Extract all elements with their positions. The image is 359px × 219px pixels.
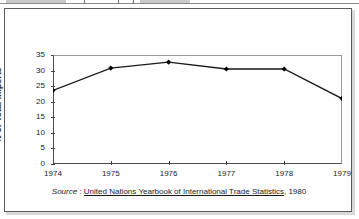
x-tick-label: 1975 xyxy=(89,169,133,178)
x-tick-mark xyxy=(111,161,112,165)
data-point-marker xyxy=(224,66,229,71)
source-title: United Nations Yearbook of International… xyxy=(84,187,284,196)
y-axis-title: % of Total Imports xyxy=(0,45,7,165)
y-tick-label: 25 xyxy=(27,82,45,90)
data-point-marker xyxy=(53,88,56,93)
scan-artifact-top-row xyxy=(0,0,359,5)
artifact-text-smudge xyxy=(140,0,190,3)
x-tick-label: 1978 xyxy=(262,169,306,178)
source-label: Source xyxy=(52,187,77,196)
y-tick-label: 10 xyxy=(27,129,45,137)
x-tick-label: 1976 xyxy=(147,169,191,178)
artifact-column-rule xyxy=(133,0,134,4)
x-tick-label: 1977 xyxy=(204,169,248,178)
data-point-marker xyxy=(282,66,287,71)
page-scan-shadow-bottom xyxy=(6,212,355,215)
artifact-column-rule xyxy=(118,0,119,4)
series-line xyxy=(53,62,342,98)
artifact-column-rule xyxy=(84,0,85,4)
x-tick-mark xyxy=(169,161,170,165)
y-tick-mark xyxy=(51,164,55,165)
x-tick-mark xyxy=(284,161,285,165)
y-tick-label: 20 xyxy=(27,98,45,106)
data-point-marker xyxy=(166,60,171,65)
artifact-text-smudge xyxy=(6,0,66,3)
figure-frame: % of Total Imports 05101520253035 197419… xyxy=(4,8,352,212)
line-series-svg xyxy=(53,55,342,164)
y-tick-label: 5 xyxy=(27,144,45,152)
source-caption: Source : United Nations Yearbook of Inte… xyxy=(5,187,353,196)
y-tick-label: 35 xyxy=(27,51,45,59)
x-tick-mark xyxy=(226,161,227,165)
source-separator: : xyxy=(77,187,84,196)
page-scan-shadow-right xyxy=(352,10,355,214)
x-tick-label: 1974 xyxy=(31,169,75,178)
data-point-marker xyxy=(108,65,113,70)
plot-area xyxy=(53,55,342,164)
y-tick-label: 30 xyxy=(27,67,45,75)
source-year: , 1980 xyxy=(284,187,306,196)
x-tick-label: 1979 xyxy=(320,169,359,178)
y-tick-label: 0 xyxy=(27,160,45,168)
y-tick-label: 15 xyxy=(27,113,45,121)
artifact-horizontal-rule xyxy=(0,3,359,4)
